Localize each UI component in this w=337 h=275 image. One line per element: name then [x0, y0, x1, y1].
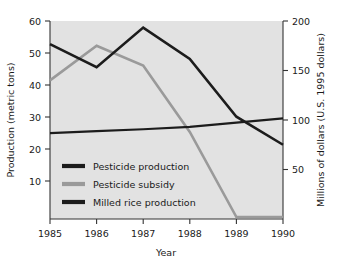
right-axis-ticks: [283, 21, 288, 170]
left-tick-label-20: 20: [29, 144, 41, 155]
x-tick-label-1985: 1985: [38, 228, 62, 239]
right-tick-label-200: 200: [292, 16, 310, 27]
left-axis-tick-labels: 60 50 40 30 20 10: [29, 16, 41, 187]
left-tick-label-60: 60: [29, 16, 41, 27]
legend-label-pesticide-subsidy: Pesticide subsidy: [93, 179, 175, 190]
left-axis-ticks: [45, 21, 50, 181]
x-tick-label-1989: 1989: [224, 228, 248, 239]
right-axis-tick-labels: 200 150 100 50: [292, 16, 310, 176]
right-tick-label-150: 150: [292, 65, 310, 76]
left-tick-label-30: 30: [29, 112, 41, 123]
y2-axis-title: Millions of dollars (U.S. 1995 dollars): [315, 33, 326, 207]
chart-figure: 60 50 40 30 20 10 200 150 100 50: [0, 0, 337, 275]
right-tick-label-100: 100: [292, 115, 310, 126]
right-tick-label-50: 50: [292, 164, 304, 175]
x-axis-title: Year: [155, 247, 176, 258]
x-tick-label-1988: 1988: [178, 228, 202, 239]
left-tick-label-50: 50: [29, 48, 41, 59]
x-tick-label-1986: 1986: [85, 228, 109, 239]
bottom-axis-ticks: [50, 219, 283, 224]
bottom-axis-tick-labels: 1985 1986 1987 1988 1989 1990: [38, 228, 295, 239]
left-tick-label-10: 10: [29, 176, 41, 187]
y-axis-title: Production (metric tons): [5, 62, 16, 177]
legend-label-pesticide-production: Pesticide production: [93, 161, 189, 172]
legend-label-milled-rice-production: Milled rice production: [93, 197, 196, 208]
left-tick-label-40: 40: [29, 80, 41, 91]
line-chart: 60 50 40 30 20 10 200 150 100 50: [0, 0, 337, 275]
x-tick-label-1990: 1990: [271, 228, 295, 239]
x-tick-label-1987: 1987: [131, 228, 155, 239]
